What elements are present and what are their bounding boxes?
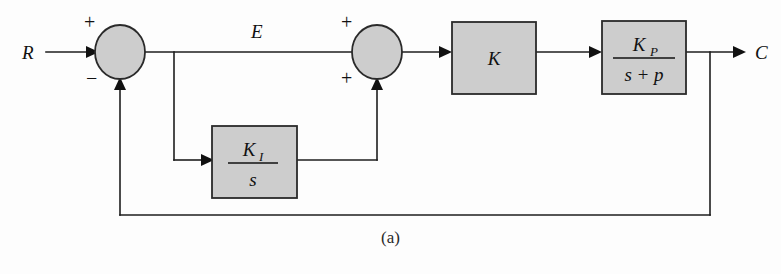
kp-numerator-subscript: P <box>649 44 658 59</box>
signal-label-c: C <box>755 42 768 63</box>
ki-numerator: K <box>242 139 257 160</box>
summer-1-plus-sign: + <box>84 11 95 33</box>
figure-canvas: K K P s + p K I s R E C + − + + (a) <box>0 0 781 274</box>
summing-junction-1 <box>95 25 145 79</box>
gain-block-k-label: K <box>487 48 502 69</box>
figure-caption: (a) <box>0 228 781 248</box>
arrowhead-into-kp-block <box>589 46 602 58</box>
arrowhead-output-c <box>733 46 746 58</box>
kp-numerator: K <box>632 34 647 55</box>
ki-denominator: s <box>249 169 256 190</box>
ki-numerator-subscript: I <box>258 149 264 164</box>
arrowhead-into-k-block <box>439 46 452 58</box>
signal-label-e: E <box>250 21 263 42</box>
signal-label-r: R <box>21 42 34 63</box>
summer-2-plus-sign-top: + <box>341 11 352 33</box>
summer-1-minus-sign: − <box>86 67 97 89</box>
summer-2-plus-sign-bottom: + <box>341 67 352 89</box>
summing-junction-2 <box>352 25 402 79</box>
kp-denominator: s + p <box>624 64 663 85</box>
